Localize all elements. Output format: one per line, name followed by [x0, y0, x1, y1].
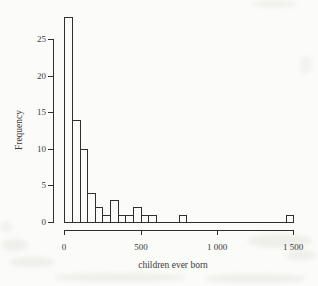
x-axis-tick [64, 230, 65, 235]
histogram-plot-area: 051015202505001 0001 500 [0, 0, 318, 286]
y-tick-label: 5 [28, 181, 46, 190]
y-tick-label: 10 [28, 145, 46, 154]
x-axis-tick [141, 230, 142, 235]
x-tick-label: 0 [44, 243, 84, 252]
x-axis-title: children ever born [138, 261, 208, 271]
x-tick-label: 1 500 [273, 243, 313, 252]
y-axis-line [53, 39, 54, 223]
histogram-bar [286, 215, 294, 223]
y-axis-tick [48, 149, 53, 150]
scanned-page: 051015202505001 0001 500 Frequency child… [0, 0, 318, 286]
y-tick-label: 25 [28, 35, 46, 44]
x-tick-label: 1 000 [197, 243, 237, 252]
y-axis-tick [48, 222, 53, 223]
x-axis-tick [217, 230, 218, 235]
x-axis-tick [293, 230, 294, 235]
y-tick-label: 0 [28, 218, 46, 227]
y-axis-tick [48, 112, 53, 113]
y-tick-label: 20 [28, 72, 46, 81]
y-axis-tick [48, 76, 53, 77]
y-axis-title: Frequency [15, 110, 25, 150]
y-axis-tick [48, 39, 53, 40]
y-tick-label: 15 [28, 108, 46, 117]
histogram-bar [179, 215, 187, 223]
y-axis-tick [48, 185, 53, 186]
x-tick-label: 500 [121, 243, 161, 252]
x-axis-line [64, 230, 294, 231]
histogram-bar [148, 215, 157, 223]
